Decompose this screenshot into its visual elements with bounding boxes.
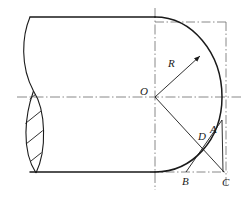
label-point-b: B [182,176,189,187]
label-point-d: D [198,131,206,142]
drawing-canvas [0,0,248,197]
hatch-line [6,78,56,118]
section-break-lens [24,17,44,173]
hatch-line [6,162,56,197]
label-center-o: O [140,86,148,97]
label-point-a: A [210,124,217,135]
break-curve-upper [24,17,34,91]
radius-dimension-line [155,56,200,97]
hatch-line [6,99,56,139]
construction-lines [155,56,224,172]
section-hatching [6,78,56,197]
technical-drawing-figure: O R A D B C [0,0,248,197]
centerlines [17,8,241,190]
lens-outline-right [34,91,44,173]
line-a-to-c [222,120,223,172]
hatch-line [6,141,56,181]
label-point-c: C [222,177,229,188]
shaft-body-outline [30,17,222,172]
hatch-line [6,120,56,160]
label-radius-r: R [168,58,175,69]
domed-end-arc [155,17,222,172]
